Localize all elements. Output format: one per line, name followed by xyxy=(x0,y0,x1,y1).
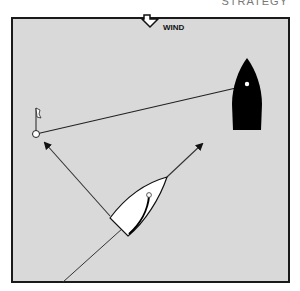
white-boat-mast xyxy=(147,193,152,198)
sailing-diagram: WIND xyxy=(0,0,300,291)
buoy-circle xyxy=(33,131,40,138)
water-area xyxy=(12,18,289,282)
wind-label: WIND xyxy=(163,23,185,32)
black-boat-mast xyxy=(245,82,249,86)
